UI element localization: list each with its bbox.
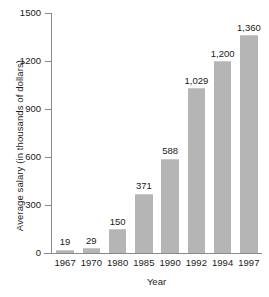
y-tick-label: 300	[1, 200, 41, 210]
y-tick-label: 600	[1, 152, 41, 162]
bar-value-label: 1,200	[202, 49, 243, 59]
y-tick-mark	[45, 61, 51, 62]
bar-item: 150	[109, 13, 126, 253]
bar-rect	[109, 229, 126, 253]
bar-value-label: 1,360	[228, 23, 269, 33]
x-tick-label: 1997	[232, 258, 266, 268]
bar-item: 1,360	[240, 13, 257, 253]
bar-value-label: 1,029	[176, 76, 217, 86]
bar-value-label: 588	[149, 146, 190, 156]
bar-rect	[135, 194, 152, 253]
y-tick-label: 1500	[1, 8, 41, 18]
bar-rect	[188, 88, 205, 253]
y-tick-label: 900	[1, 104, 41, 114]
y-tick-mark	[45, 253, 51, 254]
bar-value-label: 150	[97, 217, 138, 227]
y-tick-mark	[45, 13, 51, 14]
x-axis-line	[44, 253, 262, 254]
bar-rect	[214, 61, 231, 253]
bar-rect	[56, 250, 73, 253]
y-tick-mark	[45, 109, 51, 110]
bar-value-label: 29	[71, 236, 112, 246]
y-tick-label: 0	[1, 248, 41, 258]
y-tick-mark	[45, 157, 51, 158]
x-axis-title: Year	[51, 276, 262, 287]
bar-rect	[83, 248, 100, 253]
y-tick-label: 1200	[1, 56, 41, 66]
bar-item: 588	[161, 13, 178, 253]
bar-rect	[240, 35, 257, 253]
bar-item: 19	[56, 13, 73, 253]
bar-series: 19291503715881,0291,2001,360	[52, 13, 262, 253]
bar-value-label: 371	[123, 181, 164, 191]
bar-chart: Average salary (in thousands of dollars)…	[0, 0, 269, 297]
bar-item: 1,200	[214, 13, 231, 253]
bar-item: 371	[135, 13, 152, 253]
bar-rect	[161, 159, 178, 253]
y-tick-mark	[45, 205, 51, 206]
